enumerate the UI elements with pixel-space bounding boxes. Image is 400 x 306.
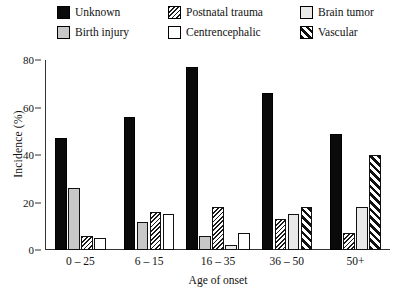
legend-swatch-unknown-icon (57, 6, 70, 19)
legend-item-brain-tumor: Brain tumor (300, 6, 374, 19)
legend-swatch-postnatal-trauma-icon (168, 6, 181, 19)
legend-swatch-birth-injury-icon (57, 26, 70, 39)
x-axis-label: Age of onset (46, 274, 390, 286)
bar-postnatal-trauma (150, 212, 162, 250)
chart-legend: Unknown Postnatal trauma Brain tumor Bir… (0, 0, 400, 46)
bar-groups (46, 60, 390, 250)
legend-item-unknown: Unknown (57, 6, 120, 19)
bar-group (321, 60, 390, 250)
legend-swatch-brain-tumor-icon (300, 6, 313, 19)
y-tick-label: 80 (4, 54, 34, 66)
bar-unknown (55, 138, 67, 250)
bar-vascular (369, 155, 381, 250)
bar-unknown (330, 134, 342, 250)
bar-unknown (262, 93, 274, 250)
legend-label-vascular: Vascular (318, 26, 358, 39)
legend-item-postnatal-trauma: Postnatal trauma (168, 6, 263, 19)
bar-postnatal-trauma (343, 233, 355, 250)
bar-unknown (186, 67, 198, 250)
y-tick-label: 20 (4, 197, 34, 209)
bar-group (46, 60, 115, 250)
bar-centrencephalic (94, 238, 106, 250)
x-tick-label: 16 – 35 (201, 255, 236, 267)
bar-brain-tumor (225, 245, 237, 250)
legend-swatch-centrencephalic-icon (168, 26, 181, 39)
bar-chart-plot: Incidence (%) 020406080 0 – 256 – 1516 –… (0, 46, 400, 306)
bar-centrencephalic (163, 214, 175, 250)
bar-group (115, 60, 184, 250)
x-axis-tick-labels: 0 – 256 – 1516 – 3536 – 5050+ (46, 255, 390, 273)
y-tick-mark (35, 155, 41, 156)
y-tick-label: 60 (4, 102, 34, 114)
bar-birth-injury (199, 236, 211, 250)
bar-birth-injury (68, 188, 80, 250)
x-tick-label: 0 – 25 (66, 255, 95, 267)
bar-postnatal-trauma (81, 236, 93, 250)
legend-label-postnatal-trauma: Postnatal trauma (186, 6, 263, 19)
bar-centrencephalic (238, 233, 250, 250)
bar-brain-tumor (356, 207, 368, 250)
y-tick-label: 0 (4, 244, 34, 256)
legend-item-centrencephalic: Centrencephalic (168, 26, 261, 39)
y-axis-ticks: 020406080 (0, 46, 45, 306)
bar-postnatal-trauma (275, 219, 287, 250)
y-tick-label: 40 (4, 149, 34, 161)
bar-unknown (124, 117, 136, 250)
x-tick-label: 50+ (347, 255, 365, 267)
x-tick-label: 6 – 15 (135, 255, 164, 267)
legend-swatch-vascular-icon (300, 26, 313, 39)
legend-item-vascular: Vascular (300, 26, 358, 39)
bar-group (252, 60, 321, 250)
bar-brain-tumor (288, 214, 300, 250)
y-tick-mark (35, 202, 41, 203)
bar-vascular (301, 207, 313, 250)
bar-group (184, 60, 253, 250)
y-tick-mark (35, 107, 41, 108)
bar-postnatal-trauma (212, 207, 224, 250)
x-tick-label: 36 – 50 (270, 255, 305, 267)
legend-label-brain-tumor: Brain tumor (318, 6, 374, 19)
y-tick-mark (35, 250, 41, 251)
bar-birth-injury (137, 222, 149, 251)
legend-label-birth-injury: Birth injury (75, 26, 129, 39)
legend-label-unknown: Unknown (75, 6, 120, 19)
y-tick-mark (35, 60, 41, 61)
legend-item-birth-injury: Birth injury (57, 26, 129, 39)
legend-label-centrencephalic: Centrencephalic (186, 26, 261, 39)
